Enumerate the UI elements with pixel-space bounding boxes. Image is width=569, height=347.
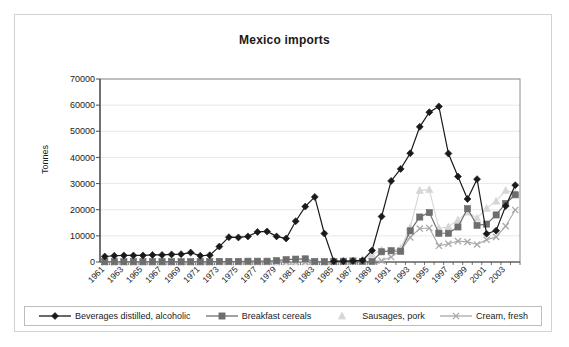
data-point bbox=[283, 257, 289, 263]
data-point bbox=[254, 228, 261, 235]
data-point bbox=[426, 209, 432, 215]
plot-area: 010000200003000040000500006000070000 196… bbox=[0, 0, 569, 347]
data-point bbox=[512, 182, 519, 189]
data-point bbox=[502, 186, 509, 193]
x-tick-label: 1971 bbox=[181, 264, 202, 285]
data-point bbox=[149, 251, 156, 258]
x-tick-label: 1991 bbox=[372, 264, 393, 285]
data-point bbox=[454, 173, 461, 180]
data-point bbox=[159, 251, 166, 258]
data-point bbox=[226, 258, 232, 264]
y-tick-label: 40000 bbox=[70, 153, 95, 163]
y-tick-label: 0 bbox=[90, 257, 95, 267]
data-point bbox=[292, 218, 299, 225]
plot-border bbox=[100, 79, 520, 262]
x-tick-label: 1997 bbox=[429, 264, 450, 285]
data-point bbox=[445, 150, 452, 157]
legend-marker-triangle-icon bbox=[325, 310, 359, 322]
x-tick-label: 1979 bbox=[258, 264, 279, 285]
data-point bbox=[445, 223, 452, 230]
legend-item-sausages-pork[interactable]: Sausages, pork bbox=[325, 310, 425, 322]
legend-item-beverages-distilled-alcoholic[interactable]: Beverages distilled, alcoholic bbox=[38, 310, 191, 322]
data-point bbox=[168, 259, 174, 265]
series-line bbox=[105, 190, 515, 262]
x-tick-label: 1977 bbox=[238, 264, 259, 285]
legend-label: Cream, fresh bbox=[476, 312, 528, 321]
x-tick-label: 1993 bbox=[391, 264, 412, 285]
data-point bbox=[378, 213, 385, 220]
y-tick-label: 50000 bbox=[70, 126, 95, 136]
data-point bbox=[493, 234, 499, 240]
data-point bbox=[378, 249, 384, 255]
legend-label: Beverages distilled, alcoholic bbox=[75, 312, 191, 321]
data-point bbox=[235, 234, 242, 241]
y-tick-label: 70000 bbox=[70, 74, 95, 84]
x-tick-label: 1989 bbox=[353, 264, 374, 285]
data-point bbox=[474, 241, 480, 247]
y-tick-label: 20000 bbox=[70, 205, 95, 215]
gridlines-group bbox=[100, 79, 520, 236]
data-point bbox=[264, 258, 270, 264]
data-point bbox=[455, 224, 461, 230]
data-point bbox=[168, 251, 175, 258]
data-point bbox=[216, 258, 222, 264]
x-tick-label: 1981 bbox=[277, 264, 298, 285]
data-point bbox=[188, 259, 194, 265]
data-point bbox=[139, 252, 146, 259]
data-point bbox=[321, 259, 327, 265]
legend-item-cream-fresh[interactable]: Cream, fresh bbox=[439, 310, 528, 322]
data-point bbox=[245, 258, 251, 264]
chart-legend: Beverages distilled, alcoholicBreakfast … bbox=[24, 306, 542, 326]
data-point bbox=[369, 258, 375, 264]
data-point bbox=[426, 109, 433, 116]
data-point bbox=[416, 123, 423, 130]
data-point bbox=[293, 256, 299, 262]
x-tick-label: 2003 bbox=[487, 264, 508, 285]
series-line bbox=[105, 195, 515, 262]
data-point bbox=[312, 258, 318, 264]
data-point bbox=[273, 233, 280, 240]
y-tick-label: 10000 bbox=[70, 231, 95, 241]
y-tick-label: 60000 bbox=[70, 100, 95, 110]
data-point bbox=[130, 252, 137, 259]
data-point bbox=[503, 223, 509, 229]
x-tick-label: 2001 bbox=[468, 264, 489, 285]
data-point bbox=[512, 192, 518, 198]
legend-marker-square-icon bbox=[205, 310, 239, 322]
data-point bbox=[464, 206, 470, 212]
data-point bbox=[254, 258, 260, 264]
data-point bbox=[302, 256, 308, 262]
data-point bbox=[120, 252, 127, 259]
legend-label: Breakfast cereals bbox=[242, 312, 312, 321]
data-point bbox=[388, 248, 394, 254]
x-tick-label: 1961 bbox=[86, 264, 107, 285]
x-tick-label: 1975 bbox=[219, 264, 240, 285]
chart-container: Mexico imports Tonnes 010000200003000040… bbox=[0, 0, 569, 347]
data-point bbox=[140, 259, 146, 265]
x-tick-label: 1963 bbox=[105, 264, 126, 285]
x-tick-label: 1967 bbox=[143, 264, 164, 285]
data-point bbox=[273, 258, 279, 264]
legend-marker-diamond-icon bbox=[38, 310, 72, 322]
data-point bbox=[388, 254, 394, 260]
data-point bbox=[178, 251, 185, 258]
data-point bbox=[207, 259, 213, 265]
data-point bbox=[111, 252, 118, 259]
data-point bbox=[149, 259, 155, 265]
legend-item-breakfast-cereals[interactable]: Breakfast cereals bbox=[205, 310, 312, 322]
data-point bbox=[493, 212, 499, 218]
data-point bbox=[474, 176, 481, 183]
x-tick-label: 1969 bbox=[162, 264, 183, 285]
y-tick-label: 30000 bbox=[70, 179, 95, 189]
data-point bbox=[197, 252, 204, 259]
data-point bbox=[235, 258, 241, 264]
data-point bbox=[398, 248, 404, 254]
data-point bbox=[483, 205, 490, 212]
legend-label: Sausages, pork bbox=[362, 312, 425, 321]
data-point bbox=[474, 222, 480, 228]
data-point bbox=[464, 195, 471, 202]
data-point bbox=[417, 214, 423, 220]
data-point bbox=[407, 150, 414, 157]
axes-group bbox=[100, 79, 520, 262]
x-tick-labels-group: 1961196319651967196919711973197519771979… bbox=[86, 264, 508, 285]
